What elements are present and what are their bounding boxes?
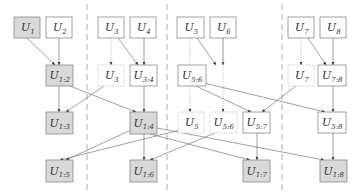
node-r1_u5: U5 <box>177 17 204 38</box>
node-r2_u78: U7:8 <box>318 65 346 86</box>
edge-r2_u56-to-r3_u58 <box>204 83 325 112</box>
edge-r1_u3-to-r2_u34 <box>118 38 138 65</box>
decomposition-diagram: U1U2U3U4U5U6U7U8U1:2U3U3:4U5:6U7U7:8U1:3… <box>0 0 361 193</box>
node-r1_u4: U4 <box>130 17 156 38</box>
node-r2_u3: U3 <box>98 65 124 86</box>
nodes: U1U2U3U4U5U6U7U8U1:2U3U3:4U5:6U7U7:8U1:3… <box>14 17 347 182</box>
node-r1_u8: U8 <box>320 17 346 38</box>
node-r2_u12: U1:2 <box>46 65 73 86</box>
edge-r2_u12-to-r3_u14 <box>70 86 136 112</box>
node-r2_u7: U7 <box>288 65 314 86</box>
node-r4_u17: U1:7 <box>243 160 270 182</box>
node-r3_u13: U1:3 <box>46 112 73 134</box>
node-r3_u58: U5:8 <box>318 112 346 133</box>
edge-r1_u7-to-r2_u78 <box>308 38 326 65</box>
node-r3_u56: U5:6 <box>210 112 237 133</box>
node-r3_u5: U5 <box>178 112 204 133</box>
edge-r2_u7-to-r3_u57 <box>262 86 296 112</box>
node-r4_u16: U1:6 <box>130 160 157 182</box>
node-r1_u3: U3 <box>98 17 124 38</box>
edge-r1_u1-to-r2_u12 <box>27 38 55 65</box>
node-r1_u2: U2 <box>46 17 72 38</box>
node-r1_u7: U7 <box>288 17 314 38</box>
node-r1_u1: U1 <box>14 17 40 38</box>
edge-r2_u56-to-r3_u57 <box>196 86 251 112</box>
node-r2_u56: U5:6 <box>178 65 206 86</box>
edges <box>27 38 333 160</box>
edge-r1_u5-to-r2_u56 <box>197 38 216 65</box>
node-r4_u18: U1:8 <box>320 160 347 182</box>
node-r2_u34: U3:4 <box>130 65 157 86</box>
edge-r3_u14-to-r4_u17 <box>150 134 250 160</box>
node-r4_u15: U1:5 <box>46 160 73 182</box>
node-r1_u6: U6 <box>210 17 236 38</box>
edge-r3_u5-to-r4_u15 <box>60 130 180 160</box>
node-r3_u14: U1:4 <box>130 112 157 134</box>
node-r3_u57: U5:7 <box>243 112 270 133</box>
edge-r2_u3-to-r3_u13 <box>66 86 104 112</box>
